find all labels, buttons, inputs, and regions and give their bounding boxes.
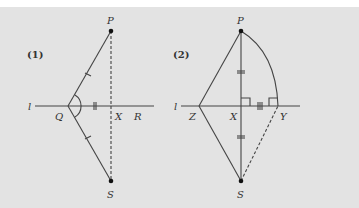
right-angle-x [241, 98, 250, 106]
segment-QS [68, 106, 111, 181]
figure-1 [35, 31, 154, 181]
label-P-1: P [106, 15, 114, 26]
geometry-diagrams: (1) l P S Q X R (2) l P S Z X Y [0, 0, 359, 208]
label-Y: Y [280, 111, 288, 122]
segment-SY-dashed [241, 106, 278, 181]
arc-PY [241, 31, 278, 106]
figure-1-tag: (1) [27, 49, 43, 60]
label-Q: Q [55, 111, 63, 122]
point-P2 [239, 29, 244, 34]
label-l-1: l [28, 101, 31, 112]
label-S-1: S [107, 189, 114, 200]
segment-ZP [199, 31, 241, 106]
label-X-1: X [114, 111, 123, 122]
segment-QP [68, 31, 111, 106]
label-l-2: l [174, 101, 177, 112]
label-P-2: P [236, 15, 244, 26]
label-S-2: S [237, 189, 244, 200]
right-angle-y [269, 98, 278, 106]
point-S2 [239, 179, 244, 184]
label-Z: Z [188, 111, 197, 122]
figure-2-tag: (2) [173, 49, 189, 60]
label-X-2: X [229, 111, 238, 122]
figure-2 [181, 31, 300, 181]
label-R: R [133, 111, 142, 122]
point-P1 [109, 29, 114, 34]
point-S1 [109, 179, 114, 184]
